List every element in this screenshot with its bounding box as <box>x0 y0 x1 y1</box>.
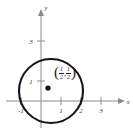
figure-container: -1 1 2 3 1 3 x y (12,12) <box>0 0 133 138</box>
y-axis-label: y <box>43 4 48 12</box>
y-tick-label-3: 3 <box>28 38 33 46</box>
close-paren: ) <box>71 64 76 80</box>
x-tick-label-1: 1 <box>59 107 63 115</box>
center-point-dot <box>45 85 50 90</box>
y-tick-label-1: 1 <box>29 78 33 86</box>
point-coordinate-label: (12,12) <box>54 65 76 80</box>
x-tick-label-3: 3 <box>98 107 103 115</box>
x-tick-label-2: 2 <box>79 107 83 115</box>
x-axis-arrow-icon <box>118 98 125 104</box>
x-axis-label: x <box>125 98 130 106</box>
y-axis-arrow-icon <box>38 9 44 16</box>
